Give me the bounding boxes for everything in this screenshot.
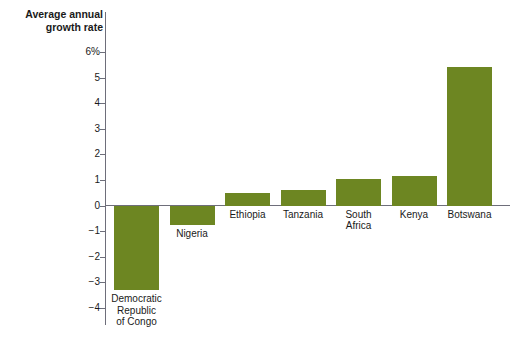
y-tick-label: −1 (56, 226, 100, 236)
category-label: Democratic Republic of Congo (102, 293, 171, 328)
y-axis-line (105, 12, 106, 325)
y-tick-neg2 (100, 257, 106, 258)
bar (392, 176, 437, 205)
plot-area: 6%543210−1−2−3−4 Democratic Republic of … (106, 12, 510, 325)
y-tick-4 (100, 103, 106, 104)
y-tick-label: −2 (56, 252, 100, 262)
category-label: Botswana (435, 209, 504, 221)
y-tick-label: 5 (56, 73, 100, 83)
bar (114, 206, 159, 290)
y-tick-label: 6% (56, 47, 100, 57)
y-tick-label: 1 (56, 175, 100, 185)
y-tick-label: 4 (56, 98, 100, 108)
y-tick-label: 3 (56, 124, 100, 134)
y-tick-label: 0 (56, 201, 100, 211)
bar (170, 206, 215, 225)
bar (447, 67, 492, 205)
y-tick-label: 2 (56, 149, 100, 159)
y-tick-neg1 (100, 231, 106, 232)
bar (336, 179, 381, 206)
y-tick-3 (100, 129, 106, 130)
y-tick-label: −3 (56, 277, 100, 287)
y-tick-5 (100, 78, 106, 79)
y-tick-6 (100, 52, 106, 53)
y-tick-1 (100, 180, 106, 181)
bar (225, 193, 270, 206)
y-tick-0 (100, 206, 106, 207)
y-tick-label: −4 (56, 303, 100, 313)
bar (281, 190, 326, 205)
growth-rate-bar-chart: Average annual growth rate 6%543210−1−2−… (0, 0, 521, 344)
y-axis-tick-labels: 6%543210−1−2−3−4 (50, 12, 100, 325)
category-label: Nigeria (158, 228, 227, 240)
y-tick-neg3 (100, 282, 106, 283)
y-tick-2 (100, 154, 106, 155)
